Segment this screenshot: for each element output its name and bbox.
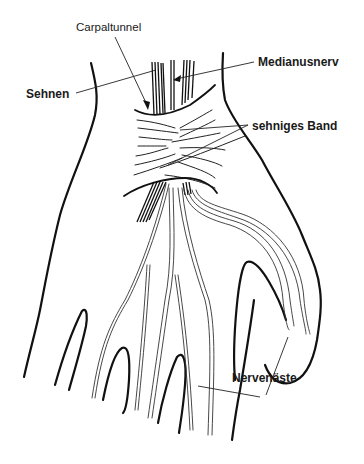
label-sehniges-band: sehniges Band <box>252 120 337 132</box>
band-top-edge <box>135 85 215 115</box>
finger-tip-1 <box>55 310 87 390</box>
nerve-branches <box>92 184 310 435</box>
band-bottom-edge <box>124 178 217 196</box>
label-sehnen: Sehnen <box>26 88 69 100</box>
carpal-tunnel-diagram: Carpaltunnel Sehnen Medianusnerv sehnige… <box>0 0 364 464</box>
label-nervenaeste: Nervenäste <box>232 372 297 384</box>
finger-tip-3 <box>158 355 186 433</box>
label-medianusnerv: Medianusnerv <box>258 56 339 68</box>
hand-illustration <box>0 0 364 464</box>
finger-tip-2 <box>103 348 129 413</box>
label-carpaltunnel: Carpaltunnel <box>76 22 141 34</box>
ligament-fibers <box>134 110 245 188</box>
